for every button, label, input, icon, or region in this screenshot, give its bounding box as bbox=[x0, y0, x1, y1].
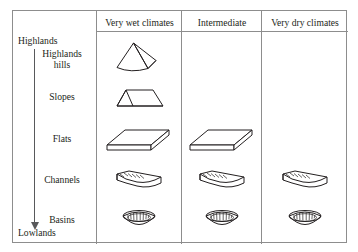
cell-slopes-very-wet bbox=[97, 81, 181, 117]
cell-flats-very-wet bbox=[97, 121, 181, 159]
flat-slab-icon bbox=[188, 125, 256, 155]
cone-hill-icon bbox=[111, 39, 167, 77]
landform-climate-figure: Very wet climates Intermediate Very dry … bbox=[0, 0, 358, 252]
cell-channels-very-dry bbox=[262, 163, 347, 199]
row-label-highlands-hills: Highlands hills bbox=[31, 48, 93, 70]
row-label-line1: Highlands bbox=[31, 48, 93, 59]
trough-channel-icon bbox=[194, 168, 250, 194]
cell-channels-intermediate bbox=[182, 163, 261, 199]
trough-channel-icon bbox=[111, 168, 167, 194]
cell-basins-very-wet bbox=[97, 203, 181, 239]
row-label-slopes: Slopes bbox=[31, 91, 93, 102]
row-label-channels: Channels bbox=[31, 174, 93, 185]
column-header-very-wet: Very wet climates bbox=[97, 15, 182, 30]
trough-channel-icon bbox=[277, 168, 333, 194]
cell-highlands-hills-very-wet bbox=[97, 37, 181, 79]
cell-basins-very-dry bbox=[262, 203, 347, 239]
cell-flats-intermediate bbox=[182, 121, 261, 159]
row-label-flats: Flats bbox=[31, 133, 93, 144]
row-label-basins: Basins bbox=[31, 214, 93, 225]
row-label-line2: hills bbox=[31, 59, 93, 70]
column-header-very-dry: Very dry climates bbox=[262, 15, 348, 30]
header-rule bbox=[96, 31, 348, 32]
cell-channels-very-wet bbox=[97, 163, 181, 199]
axis-top-label: Highlands bbox=[18, 35, 57, 47]
flat-slab-icon bbox=[105, 125, 173, 155]
column-header-intermediate: Intermediate bbox=[182, 15, 262, 30]
bowl-basin-icon bbox=[119, 207, 159, 235]
bowl-basin-icon bbox=[202, 207, 242, 235]
cell-basins-intermediate bbox=[182, 203, 261, 239]
bowl-basin-icon bbox=[285, 207, 325, 235]
wedge-slope-icon bbox=[109, 84, 169, 114]
axis-bottom-label: Lowlands bbox=[18, 227, 56, 239]
figure-frame: Very wet climates Intermediate Very dry … bbox=[12, 10, 347, 243]
